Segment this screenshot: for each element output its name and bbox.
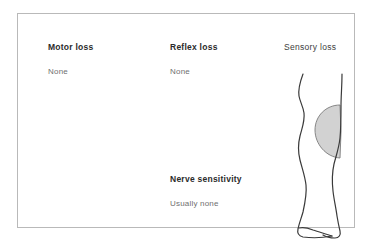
column-motor-loss: Motor loss None (48, 42, 163, 77)
nerve-sensitivity-value: Usually none (170, 198, 290, 209)
column-reflex-loss: Reflex loss None (170, 42, 280, 77)
leg-anterior-outline (298, 74, 332, 238)
nerve-sensitivity-heading: Nerve sensitivity (170, 174, 290, 185)
leg-side-view-diagram (286, 72, 361, 240)
sensory-loss-heading: Sensory loss (284, 42, 373, 53)
column-nerve-sensitivity: Nerve sensitivity Usually none (170, 174, 290, 209)
sensory-loss-region (315, 105, 341, 158)
reflex-loss-value: None (170, 66, 280, 77)
column-sensory-loss: Sensory loss (284, 42, 373, 53)
foot-sole-outline (299, 228, 332, 236)
motor-loss-value: None (48, 66, 163, 77)
diagram-card: Motor loss None Reflex loss None Sensory… (17, 13, 355, 228)
reflex-loss-heading: Reflex loss (170, 42, 280, 53)
motor-loss-heading: Motor loss (48, 42, 163, 53)
